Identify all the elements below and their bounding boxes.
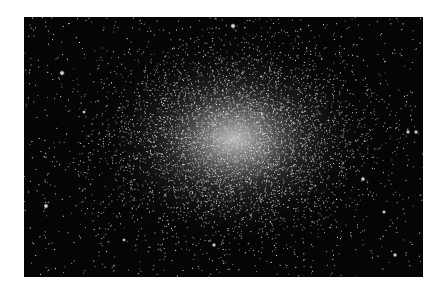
star-cluster-photo <box>24 17 423 277</box>
star-field <box>24 17 423 277</box>
